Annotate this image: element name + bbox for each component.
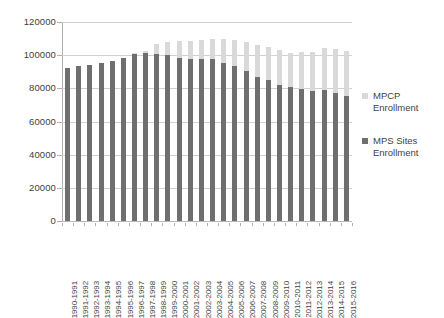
x-axis-tick-label: 1993-1994	[104, 281, 112, 318]
bar-segment-mps	[132, 54, 137, 221]
axis-baseline	[62, 221, 352, 222]
legend-swatch-mpcp-icon	[362, 93, 368, 99]
bar-group	[110, 22, 115, 221]
bar-segment-mps	[87, 65, 92, 221]
plot-area	[62, 22, 352, 221]
x-axis-tick-mark	[240, 223, 241, 226]
bar-segment-mpcp	[277, 50, 282, 85]
x-axis-tick-mark	[140, 223, 141, 226]
bar-segment-mps	[288, 87, 293, 221]
bar-segment-mps	[199, 59, 204, 221]
bar-segment-mpcp	[188, 41, 193, 59]
legend-item-mpcp: MPCP Enrollment	[362, 90, 442, 113]
x-axis-tick-label: 2015-2016	[350, 281, 358, 318]
y-axis-tick-label: 0	[0, 216, 56, 226]
x-axis-tick-mark	[118, 223, 119, 226]
bar-group	[333, 22, 338, 221]
x-axis-tick-mark	[229, 223, 230, 226]
bar-segment-mpcp	[177, 41, 182, 58]
x-axis-tick-mark	[196, 223, 197, 226]
bar-group	[344, 22, 349, 221]
x-axis-tick-mark	[252, 223, 253, 226]
y-axis-tick-label: 20000	[0, 183, 56, 193]
bar-segment-mps	[344, 96, 349, 221]
chart-legend: MPCP Enrollment MPS Sites Enrollment	[362, 90, 442, 180]
x-axis-tick-label: 2010-2011	[294, 281, 302, 318]
bar-segment-mpcp	[288, 53, 293, 87]
bar-segment-mpcp	[143, 51, 148, 53]
bar-segment-mpcp	[221, 39, 226, 63]
x-axis-tick-mark	[274, 223, 275, 226]
bar-segment-mps	[99, 63, 104, 221]
bar-group	[143, 22, 148, 221]
bar-segment-mpcp	[266, 47, 271, 80]
bar-group	[188, 22, 193, 221]
bar-segment-mpcp	[154, 44, 159, 54]
bar-group	[266, 22, 271, 221]
y-axis-tick-label: 60000	[0, 117, 56, 127]
x-axis-tick-label: 2012-2013	[316, 281, 324, 318]
x-axis-tick-mark	[84, 223, 85, 226]
bar-segment-mps	[143, 53, 148, 221]
bar-group	[154, 22, 159, 221]
x-axis-tick-label: 2014-2015	[338, 281, 346, 318]
x-axis-tick-label: 1994-1995	[115, 281, 123, 318]
bar-group	[132, 22, 137, 221]
x-axis-tick-label: 2005-2006	[238, 281, 246, 318]
bar-group	[65, 22, 70, 221]
y-axis-tick-label: 100000	[0, 50, 56, 60]
bar-group	[322, 22, 327, 221]
bar-segment-mps	[188, 59, 193, 221]
x-axis-tick-mark	[285, 223, 286, 226]
x-axis-tick-label: 2007-2008	[260, 281, 268, 318]
x-axis-labels: 1990-19911991-19921992-19931993-19941994…	[62, 223, 352, 285]
x-axis-tick-label: 2011-2012	[305, 281, 313, 318]
bar-segment-mps	[76, 66, 81, 221]
legend-label-mps-line2: Enrollment	[373, 147, 442, 159]
x-axis-tick-label: 2001-2002	[193, 281, 201, 318]
bar-group	[177, 22, 182, 221]
bar-segment-mpcp	[333, 49, 338, 93]
bar-group	[210, 22, 215, 221]
x-axis-tick-label: 2000-2001	[182, 281, 190, 318]
x-axis-tick-label: 2013-2014	[327, 281, 335, 318]
bar-group	[121, 22, 126, 221]
y-axis-tick-mark	[57, 221, 62, 222]
x-axis-tick-mark	[218, 223, 219, 226]
bar-segment-mpcp	[322, 48, 327, 90]
x-axis-tick-label: 2006-2007	[249, 281, 257, 318]
x-axis-tick-label: 2002-2003	[205, 281, 213, 318]
bar-segment-mps	[177, 58, 182, 221]
x-axis-tick-label: 2004-2005	[227, 281, 235, 318]
bar-group	[244, 22, 249, 221]
bar-segment-mpcp	[255, 45, 260, 77]
bar-group	[277, 22, 282, 221]
x-axis-tick-mark	[330, 223, 331, 226]
bar-group	[99, 22, 104, 221]
x-axis-tick-label: 2008-2009	[272, 281, 280, 318]
bar-group	[165, 22, 170, 221]
bar-segment-mpcp	[165, 42, 170, 55]
bar-segment-mps	[221, 63, 226, 221]
bar-segment-mps	[299, 89, 304, 221]
bar-segment-mpcp	[299, 52, 304, 89]
bar-segment-mps	[244, 71, 249, 221]
bar-group	[310, 22, 315, 221]
bar-segment-mps	[121, 58, 126, 221]
legend-item-mps: MPS Sites Enrollment	[362, 135, 442, 158]
x-axis-tick-label: 1999-2000	[171, 281, 179, 318]
bar-segment-mpcp	[232, 40, 237, 66]
x-axis-tick-mark	[307, 223, 308, 226]
x-axis-tick-mark	[319, 223, 320, 226]
bar-segment-mps	[266, 80, 271, 221]
bar-segment-mpcp	[244, 42, 249, 71]
x-axis-tick-mark	[207, 223, 208, 226]
bar-segment-mps	[210, 59, 215, 221]
x-axis-tick-mark	[95, 223, 96, 226]
bar-segment-mps	[232, 66, 237, 221]
bar-group	[87, 22, 92, 221]
bar-segment-mpcp	[310, 52, 315, 91]
x-axis-tick-label: 1991-1992	[82, 281, 90, 318]
x-axis-tick-label: 1992-1993	[93, 281, 101, 318]
